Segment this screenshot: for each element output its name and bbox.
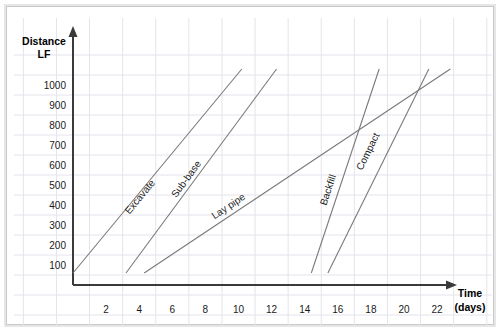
- x-tick-label: 10: [233, 304, 245, 315]
- series-line: [328, 69, 429, 273]
- y-tick-label: 400: [49, 200, 66, 211]
- series-lines: [73, 69, 450, 273]
- x-axis-title-line1: Time: [458, 287, 482, 299]
- x-tick-label: 6: [170, 304, 176, 315]
- y-tick-label: 900: [49, 100, 66, 111]
- y-tick-label: 600: [49, 160, 66, 171]
- x-tick-label: 18: [365, 304, 377, 315]
- chart-plot-area: 246810121416182022 100200300400500600700…: [0, 0, 502, 333]
- x-tick-label: 8: [203, 304, 209, 315]
- y-tick-label: 800: [49, 120, 66, 131]
- x-tick-label: 2: [103, 304, 109, 315]
- line-chart: 246810121416182022 100200300400500600700…: [0, 0, 502, 333]
- vertical-gridlines: [23, 18, 486, 325]
- figure-frame: 246810121416182022 100200300400500600700…: [0, 0, 502, 333]
- x-axis-title-line2: (days): [455, 301, 486, 313]
- y-tick-label: 1000: [44, 80, 67, 91]
- y-axis-title-line2: LF: [38, 48, 51, 60]
- series-label: Sub-base: [169, 158, 204, 199]
- y-tick-label: 300: [49, 220, 66, 231]
- y-tick-label: 500: [49, 180, 66, 191]
- x-tick-label: 22: [432, 304, 444, 315]
- x-tick-labels: 246810121416182022: [103, 304, 443, 315]
- x-tick-label: 16: [332, 304, 344, 315]
- series-label: Excavate: [122, 177, 157, 216]
- y-tick-label: 700: [49, 140, 66, 151]
- y-tick-label: 100: [49, 260, 66, 271]
- x-tick-label: 12: [266, 304, 278, 315]
- series-labels: ExcavateSub-baseLay pipeBackfillCompact: [122, 131, 381, 221]
- y-tick-label: 200: [49, 240, 66, 251]
- axis-titles: Distance LF Time (days): [22, 35, 485, 313]
- x-tick-label: 20: [398, 304, 410, 315]
- x-tick-label: 14: [299, 304, 311, 315]
- series-line: [126, 69, 277, 273]
- x-tick-label: 4: [136, 304, 142, 315]
- y-axis-title-line1: Distance: [22, 35, 66, 47]
- axis-lines: [69, 26, 458, 290]
- series-line: [73, 69, 242, 273]
- series-label: Compact: [354, 131, 382, 172]
